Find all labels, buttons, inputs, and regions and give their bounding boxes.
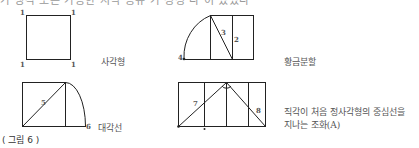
square-shape (27, 16, 71, 60)
diagonal-label: 대각선 (98, 121, 122, 134)
square-corner-mark: 1 (71, 60, 76, 69)
golden-section-label: 황금분할 (284, 55, 316, 68)
figure-drawings (0, 0, 419, 148)
diagonal-shape (23, 83, 87, 127)
golden-mark: 3 (221, 28, 226, 37)
figure-caption: ( 그림 6 ) (2, 133, 39, 146)
golden-mark: 4 (178, 53, 183, 62)
harmony-mark: 8 (256, 106, 261, 115)
square-label: 사각형 (101, 55, 125, 68)
harmony-mark: 7 (193, 99, 198, 108)
golden-mark: 2 (234, 35, 239, 44)
square-corner-mark: 1 (20, 60, 25, 69)
harmony-label-line1: 직각이 처음 정사각형의 중심선을 (284, 105, 405, 118)
square-corner-mark: 1 (20, 8, 25, 17)
golden-section-shape (184, 16, 254, 60)
harmony-label-line2: 지나는 조화(A) (284, 118, 340, 131)
diagonal-mark: 5 (41, 98, 46, 107)
diagonal-mark: 6 (86, 122, 91, 131)
square-corner-mark: 1 (71, 8, 76, 17)
harmony-a-shape (179, 83, 266, 127)
